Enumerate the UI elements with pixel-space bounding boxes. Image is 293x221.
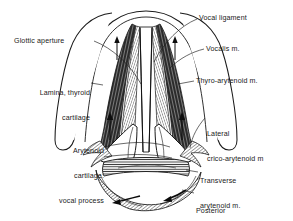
label-posterior-crico-arytenoid: Posterior crico-arytenoid m. (196, 190, 255, 221)
label-lateral-crico-line1: Lateral (207, 130, 263, 138)
label-lamina-thyroid-line1: Lamina, thyroid (6, 89, 90, 97)
label-vocal-ligament: Vocal ligament (199, 14, 247, 22)
label-vocalis-muscle: Vocalis m. (206, 45, 240, 53)
label-lamina-thyroid-line2: cartilage (6, 114, 90, 122)
label-arytenoid-line2: cartilage: (4, 172, 104, 180)
leader-lamina-thyroid (91, 83, 103, 85)
anatomy-figure: Glottic aperture Lamina, thyroid cartila… (0, 0, 293, 221)
label-arytenoid-cartilage: Arytenoid cartilage: vocal process muscu… (4, 130, 104, 221)
label-arytenoid-line1: Arytenoid (4, 147, 104, 155)
label-posterior-line1: Posterior (196, 207, 255, 215)
label-vocal-process: vocal process (4, 197, 104, 205)
label-glottic-aperture: Glottic aperture (14, 37, 64, 45)
label-thyro-arytenoid-muscle: Thyro-arytenoid m. (196, 77, 258, 85)
transverse-arytenoid-muscle (103, 158, 190, 177)
leader-thyro-arytenoid (178, 81, 194, 84)
label-transverse-line1: Transverse (200, 177, 240, 185)
